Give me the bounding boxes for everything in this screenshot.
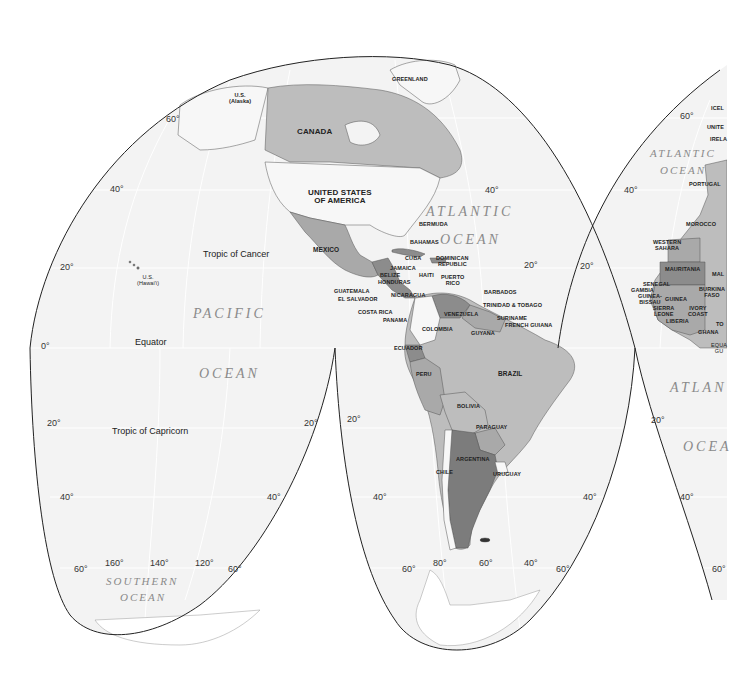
- label-atlantic-north-ocean: OCEAN: [440, 233, 501, 247]
- deg-lat60-sw2r: 60°: [556, 565, 570, 574]
- label-atlantic-south-ocean: OCEA: [683, 440, 732, 454]
- label-trinidad: TRINIDAD & TOBAGO: [483, 303, 542, 309]
- label-equator: Equator: [135, 338, 167, 347]
- deg-lat40-ne-amer: 40°: [485, 186, 499, 195]
- label-puerto-rico: PUERTORICO: [441, 275, 464, 286]
- deg-lat40-sw1r: 40°: [267, 493, 281, 502]
- label-canada: CANADA: [297, 128, 332, 136]
- label-chile: CHILE: [436, 470, 453, 476]
- label-nicaragua: NICARAGUA: [391, 293, 426, 299]
- label-morocco: MOROCCO: [686, 222, 716, 228]
- deg-lat40-se: 40°: [680, 493, 694, 502]
- label-barbados: BARBADOS: [484, 290, 517, 296]
- label-atlantic-south: ATLAN: [670, 381, 727, 395]
- label-panama: PANAMA: [383, 318, 407, 324]
- deg-lat20-sw1: 20°: [47, 419, 61, 428]
- label-eq-guinea: EQUAGU: [711, 343, 727, 354]
- label-atlantic-ne-ocean: OCEAN: [660, 165, 706, 176]
- label-costa-rica: COSTA RICA: [358, 310, 393, 316]
- label-haiti: HAITI: [419, 273, 434, 279]
- ws-sub: SAHARA: [653, 246, 681, 252]
- sl-sub: LEONE: [653, 312, 674, 318]
- label-western-sahara: WESTERNSAHARA: [653, 240, 681, 251]
- dominican-sub: REPUBLIC: [436, 262, 469, 268]
- label-togo: TO: [716, 322, 724, 328]
- deg-lat60-ne: 60°: [680, 112, 694, 121]
- ic-sub: COAST: [688, 312, 708, 318]
- label-greenland: GREENLAND: [392, 77, 428, 83]
- deg-lon120: 120°: [195, 559, 214, 568]
- label-paraguay: PARAGUAY: [476, 425, 507, 431]
- label-dominican: DOMINICANREPUBLIC: [436, 256, 469, 267]
- deg-lat20-sw1r: 20°: [304, 419, 318, 428]
- label-bolivia: BOLIVIA: [457, 404, 480, 410]
- alaska-sub: (Alaska): [229, 99, 251, 105]
- label-southern-ocean: OCEAN: [120, 592, 166, 603]
- label-guatemala: GUATEMALA: [334, 289, 370, 295]
- label-argentina: ARGENTINA: [456, 457, 490, 463]
- deg-lat20-nw: 20°: [60, 263, 74, 272]
- deg-lat60-sw1: 60°: [74, 565, 88, 574]
- label-suriname: SURINAME: [497, 316, 527, 322]
- pr-sub: RICO: [441, 281, 464, 287]
- usa-sub: OF AMERICA: [308, 197, 372, 205]
- label-mexico: MEXICO: [313, 247, 339, 254]
- label-southern: SOUTHERN: [106, 576, 178, 587]
- deg-lat40-sw1: 40°: [60, 493, 74, 502]
- label-el-salvador: EL SALVADOR: [338, 297, 378, 303]
- label-honduras: HONDURAS: [378, 280, 411, 286]
- deg-lat40-sw2: 40°: [373, 493, 387, 502]
- label-guyana: GUYANA: [471, 331, 495, 337]
- alaska-shape: [178, 86, 268, 150]
- label-jamaica: JAMAICA: [390, 266, 416, 272]
- label-venezuela: VENEZUELA: [444, 312, 478, 318]
- label-bermuda: BERMUDA: [419, 222, 448, 228]
- label-hawaii: U.S.(Hawai'i): [137, 275, 159, 286]
- label-ireland: IRELA: [710, 137, 727, 143]
- label-mali: MAL: [712, 272, 724, 278]
- deg-lat60-sw2: 60°: [402, 565, 416, 574]
- label-guinea-bissau: GUINEA-BISSAU: [638, 294, 662, 305]
- deg-lat60-se: 60°: [712, 565, 726, 574]
- deg-lat20-sw2: 20°: [347, 415, 361, 424]
- label-bahamas: BAHAMAS: [410, 240, 439, 246]
- label-guinea: GUINEA: [665, 297, 687, 303]
- label-alaska: U.S.(Alaska): [229, 93, 251, 104]
- deg-lon60: 60°: [479, 559, 493, 568]
- label-cuba: CUBA: [405, 256, 421, 262]
- deg-lat20-ne-amer: 20°: [524, 261, 538, 270]
- lobe-south-pacific: [30, 348, 335, 635]
- bf-sub: FASO: [699, 293, 725, 299]
- deg-lat60-nw: 60°: [166, 115, 180, 124]
- label-ivory-coast: IVORYCOAST: [688, 306, 708, 317]
- deg-lat20-ne: 20°: [580, 262, 594, 271]
- deg-lon80: 80°: [433, 559, 447, 568]
- deg-lat0-w: 0°: [41, 342, 50, 351]
- label-liberia: LIBERIA: [666, 319, 689, 325]
- deg-lat40-sw2r: 40°: [583, 493, 597, 502]
- label-atlantic-ne: ATLANTIC: [650, 148, 716, 159]
- label-french-guiana: FRENCH GUIANA: [505, 323, 552, 329]
- label-ecuador: ECUADOR: [394, 346, 423, 352]
- label-belize: BELIZE: [380, 273, 400, 279]
- label-atlantic-north: ATLANTIC: [426, 205, 513, 219]
- eg-sub: GU: [711, 349, 727, 355]
- label-portugal: PORTUGAL: [689, 182, 721, 188]
- label-sierra-leone: SIERRALEONE: [653, 306, 674, 317]
- deg-lat20-se: 20°: [651, 416, 665, 425]
- deg-lon160: 160°: [105, 559, 124, 568]
- deg-lat60-sw1r: 60°: [228, 565, 242, 574]
- label-ghana: GHANA: [698, 330, 719, 336]
- label-tropic-cancer: Tropic of Cancer: [203, 250, 269, 259]
- deg-lat40-ne: 40°: [624, 186, 638, 195]
- label-iceland: ICEL: [711, 106, 724, 112]
- label-usa: UNITED STATESOF AMERICA: [308, 189, 372, 205]
- hawaii-sub: (Hawai'i): [137, 281, 159, 287]
- deg-lon40: 40°: [524, 559, 538, 568]
- label-pacific: PACIFIC: [193, 307, 266, 321]
- label-uruguay: URUGUAY: [493, 472, 521, 478]
- label-pacific-ocean: OCEAN: [199, 367, 260, 381]
- label-tropic-capricorn: Tropic of Capricorn: [112, 427, 188, 436]
- label-uk: UNITE: [707, 125, 724, 131]
